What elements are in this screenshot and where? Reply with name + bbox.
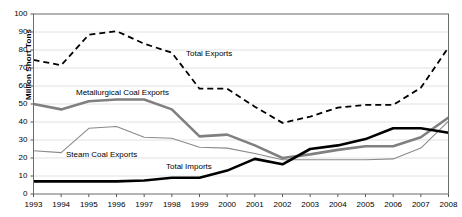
series-label-total-imports: Total Imports [166,162,212,171]
series-label-total-exports: Total Exports [186,49,232,58]
series-label-metallurgical-coal-exports: Metallurgical Coal Exports [76,88,169,97]
series-label-steam-coal-exports: Steam Coal Exports [66,150,137,159]
plot-area [0,0,462,217]
series-line-total-exports [34,31,449,123]
coal-trade-line-chart: Million Short Tons 010203040506070809010… [0,0,462,217]
